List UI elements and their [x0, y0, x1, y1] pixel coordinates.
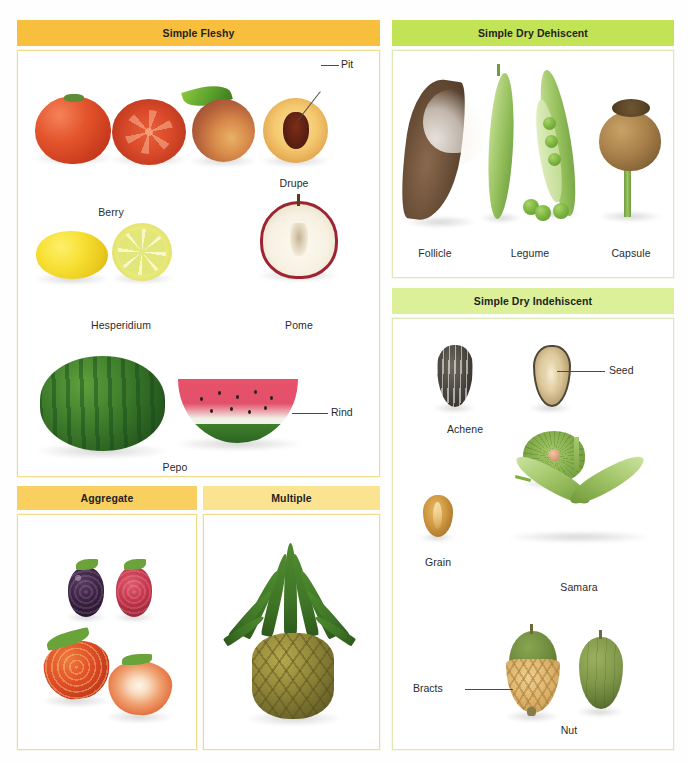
pea-in-pod — [548, 153, 561, 166]
panel-header-simple-dry-indehiscent: Simple Dry Indehiscent — [392, 288, 674, 314]
panel-header-label: Multiple — [271, 492, 311, 504]
melon-seed — [210, 409, 213, 413]
blackberry — [68, 567, 104, 617]
label-pepo: Pepo — [163, 461, 188, 473]
melon-seed — [230, 407, 233, 411]
pea-in-pod — [543, 117, 556, 130]
plain-nut-stem — [599, 630, 602, 639]
apple-stem — [297, 194, 300, 206]
strawberry-halved — [106, 659, 174, 717]
achene-kernel — [544, 360, 560, 395]
capsule-crown — [612, 99, 650, 117]
melon-seed — [200, 397, 203, 401]
samara-wing-shadow — [509, 531, 649, 543]
peach-whole — [192, 99, 255, 162]
acorn-stem — [530, 624, 533, 634]
panel-header-simple-dry-dehiscent: Simple Dry Dehiscent — [392, 20, 674, 46]
pea-loose — [553, 203, 569, 219]
fruit-classification-figure: Simple Fleshy Berry Drupe Pit Hesperidiu… — [0, 0, 689, 764]
panel-multiple — [203, 514, 380, 750]
label-drupe: Drupe — [279, 177, 308, 189]
panel-header-label: Simple Dry Indehiscent — [474, 295, 592, 307]
callout-seed: Seed — [609, 364, 634, 376]
panel-simple-dry-dehiscent: Follicle Legume Capsule — [392, 50, 674, 278]
acorn-base-nub — [527, 707, 536, 716]
melon-seed — [270, 396, 273, 400]
maple-samara-joint — [574, 437, 579, 471]
watermelon-whole — [40, 356, 165, 451]
pineapple-body — [252, 633, 334, 719]
label-nut: Nut — [561, 724, 578, 736]
panel-header-label: Aggregate — [81, 492, 134, 504]
label-capsule: Capsule — [611, 247, 650, 259]
lemon-cross-section — [112, 223, 172, 281]
seed-leader-line — [557, 371, 605, 372]
watermelon-wedge — [178, 379, 298, 443]
pea-pod-closed-stem — [497, 64, 500, 76]
melon-seed — [248, 410, 251, 414]
label-legume: Legume — [511, 247, 550, 259]
melon-seed — [218, 391, 221, 395]
panel-header-aggregate: Aggregate — [17, 486, 197, 510]
bracts-leader-line — [465, 689, 513, 690]
panel-header-simple-fleshy: Simple Fleshy — [17, 20, 380, 46]
apple-halved — [260, 201, 338, 279]
tomato-calyx — [64, 94, 84, 102]
acorn-cup-bracts — [506, 659, 560, 713]
panel-header-label: Simple Fleshy — [163, 27, 235, 39]
panel-simple-fleshy: Berry Drupe Pit Hesperidium Pome — [17, 50, 380, 477]
pit-leader-line-horizontal — [321, 65, 339, 66]
callout-rind: Rind — [331, 406, 353, 418]
label-samara: Samara — [560, 581, 597, 593]
raspberry — [116, 567, 152, 617]
melon-seed — [236, 395, 239, 399]
apple-core — [290, 223, 307, 256]
label-achene: Achene — [447, 423, 483, 435]
lemon-whole — [36, 231, 108, 279]
pea-in-pod — [545, 135, 558, 148]
label-grain: Grain — [425, 556, 451, 568]
label-hesperidium: Hesperidium — [91, 319, 151, 331]
label-berry: Berry — [98, 206, 124, 218]
callout-pit: Pit — [341, 58, 353, 70]
wheat-grain — [423, 495, 453, 537]
panel-simple-dry-indehiscent: Seed Achene Grain Samara Bracts Nut — [392, 318, 674, 750]
samara-nutlet — [548, 449, 560, 461]
tomato-cross-section — [112, 99, 186, 165]
peach-pit — [283, 112, 309, 148]
label-pome: Pome — [285, 319, 313, 331]
plain-nut — [579, 637, 623, 709]
rind-leader-line — [292, 413, 328, 414]
melon-seed — [254, 390, 257, 394]
tomato-whole — [35, 96, 111, 164]
poppy-capsule — [599, 111, 661, 171]
panel-header-label: Simple Dry Dehiscent — [478, 27, 588, 39]
panel-header-multiple: Multiple — [203, 486, 380, 510]
pea-loose — [535, 205, 551, 221]
follicle-floss-front — [423, 89, 481, 153]
pea-pod-closed — [485, 72, 517, 219]
panel-aggregate — [17, 514, 197, 750]
callout-bracts: Bracts — [413, 682, 443, 694]
peach-halved — [263, 98, 328, 163]
melon-seed — [264, 406, 267, 410]
sunflower-seed-whole — [437, 345, 473, 407]
sunflower-seed-sectioned — [533, 345, 571, 407]
label-follicle: Follicle — [418, 247, 451, 259]
